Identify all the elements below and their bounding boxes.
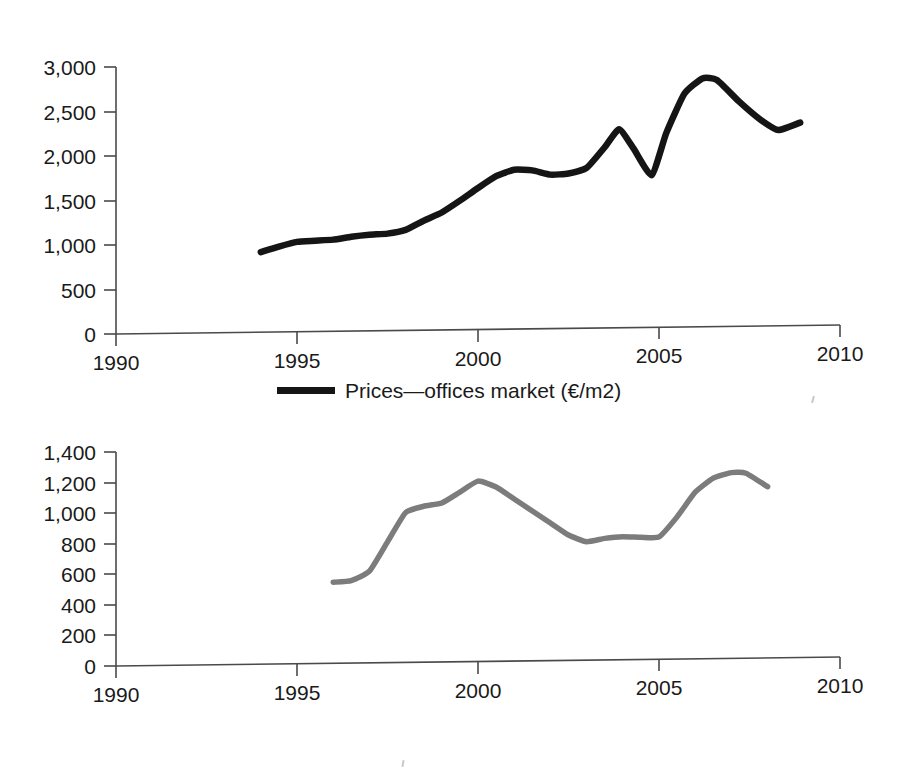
y-ticklabel-transactions-3: 600 [61, 563, 96, 586]
x-ticklabel-prices-1: 1995 [274, 349, 321, 372]
x-ticklabel-transactions-3: 2005 [636, 676, 683, 699]
y-ticklabel-transactions-7: 1,400 [43, 441, 96, 464]
y-ticklabel-prices-2: 1,000 [43, 234, 96, 257]
chart-panel-prices: 3,000 2,500 2,000 1,500 1,000 500 0 1990… [0, 0, 907, 420]
x-ticklabel-prices-4: 2010 [817, 342, 864, 365]
y-ticklabel-prices-5: 2,500 [43, 101, 96, 124]
data-line-prices [261, 78, 800, 252]
y-ticklabel-prices-1: 500 [61, 279, 96, 302]
y-ticklabel-transactions-2: 400 [61, 594, 96, 617]
data-line-transactions [333, 472, 767, 582]
x-ticklabel-transactions-4: 2010 [817, 674, 864, 697]
y-ticklabel-transactions-1: 200 [61, 624, 96, 647]
chart-panel-transactions: 1,400 1,200 1,000 800 600 400 200 0 1990… [0, 420, 907, 773]
transactions-chart-svg: 1,400 1,200 1,000 800 600 400 200 0 1990… [0, 420, 907, 773]
y-ticklabel-transactions-0: 0 [84, 655, 96, 678]
y-ticklabel-prices-0: 0 [84, 323, 96, 346]
legend-label-prices: Prices—offices market (€/m2) [345, 380, 621, 401]
figure-two-line-charts: 3,000 2,500 2,000 1,500 1,000 500 0 1990… [0, 0, 907, 773]
x-ticklabel-transactions-0: 1990 [93, 683, 140, 706]
x-ticklabel-transactions-1: 1995 [274, 681, 321, 704]
x-ticklabel-prices-0: 1990 [93, 351, 140, 374]
y-ticklabel-transactions-4: 800 [61, 533, 96, 556]
x-ticklabel-transactions-2: 2000 [455, 679, 502, 702]
x-ticklabel-prices-3: 2005 [636, 344, 683, 367]
y-ticklabel-prices-4: 2,000 [43, 145, 96, 168]
y-ticklabel-transactions-5: 1,000 [43, 502, 96, 525]
y-ticklabel-prices-6: 3,000 [43, 56, 96, 79]
legend-line-swatch-prices [277, 387, 335, 394]
prices-chart-svg: 3,000 2,500 2,000 1,500 1,000 500 0 1990… [0, 0, 907, 420]
y-ticklabel-transactions-6: 1,200 [43, 472, 96, 495]
legend-prices: Prices—offices market (€/m2) [277, 380, 621, 401]
x-ticklabel-prices-2: 2000 [455, 347, 502, 370]
y-ticklabel-prices-3: 1,500 [43, 190, 96, 213]
